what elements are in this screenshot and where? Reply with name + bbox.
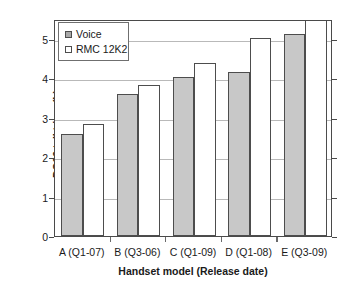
- y-axis-tick-label: 2: [34, 153, 48, 163]
- bar-a-voice: [61, 134, 83, 236]
- bar-a-rmc-12k2: [83, 124, 105, 236]
- axis-tick-mark: [332, 79, 337, 80]
- x-axis-tick-labels: A (Q1-07)B (Q3-06)C (Q1-09)D (Q1-08)E (Q…: [54, 246, 332, 262]
- y-axis-tick-label: 4: [34, 74, 48, 84]
- x-axis-tick-label: B (Q3-06): [110, 246, 166, 258]
- y-axis-tick-label: 5: [34, 35, 48, 45]
- y-axis-tick-labels: 012345: [26, 0, 48, 295]
- y-axis-tick-label: 0: [34, 232, 48, 242]
- category-tick-mark: [221, 237, 222, 242]
- axis-tick-mark: [49, 237, 54, 238]
- legend-item-rmc-12k2: RMC 12K2: [65, 42, 128, 57]
- legend-label-voice: Voice: [76, 29, 102, 40]
- x-axis-tick-label: E (Q3-09): [276, 246, 332, 258]
- axis-tick-mark: [332, 119, 337, 120]
- bar-c-voice: [173, 77, 195, 236]
- bar-b-rmc-12k2: [138, 85, 160, 237]
- legend-item-voice: Voice: [65, 27, 128, 42]
- chart-legend: Voice RMC 12K2: [58, 22, 129, 61]
- category-tick-mark: [165, 237, 166, 242]
- bar-d-rmc-12k2: [250, 38, 272, 236]
- y-axis-tick-label: 1: [34, 193, 48, 203]
- axis-tick-mark: [332, 40, 337, 41]
- axis-tick-mark: [332, 198, 337, 199]
- bar-e-rmc-12k2: [305, 20, 327, 236]
- legend-label-rmc-12k2: RMC 12K2: [76, 44, 127, 55]
- category-tick-mark: [110, 237, 111, 242]
- x-axis-tick-label: A (Q1-07): [54, 246, 110, 258]
- x-axis-tick-label: C (Q1-09): [165, 246, 221, 258]
- x-axis-title: Handset model (Release date): [54, 265, 332, 277]
- bar-d-voice: [228, 72, 250, 236]
- bar-b-voice: [117, 94, 139, 236]
- voice-swatch-icon: [65, 31, 72, 38]
- category-tick-mark: [276, 237, 277, 242]
- axis-tick-mark: [332, 237, 337, 238]
- x-axis-tick-label: D (Q1-08): [221, 246, 277, 258]
- bar-e-voice: [284, 34, 306, 236]
- bar-c-rmc-12k2: [194, 63, 216, 236]
- bar-chart-figure: DG09 talkt-ime (h) 012345 Voice RMC 12K2…: [0, 0, 357, 295]
- y-axis-tick-label: 3: [34, 114, 48, 124]
- rmc-swatch-icon: [65, 46, 72, 53]
- axis-tick-mark: [332, 158, 337, 159]
